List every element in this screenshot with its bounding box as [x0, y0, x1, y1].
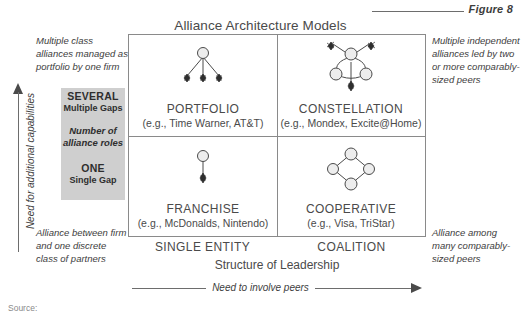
quadrant-label: FRANCHISE	[167, 202, 240, 216]
x-category-single-entity: SINGLE ENTITY	[128, 240, 277, 254]
quadrant-examples: (e.g., Mondex, Excite@Home)	[281, 116, 422, 130]
x-axis-label-text: Need to involve peers	[206, 282, 315, 293]
quadrant-label: COOPERATIVE	[306, 202, 396, 216]
x-category-coalition: COALITION	[277, 240, 426, 254]
quadrant-examples: (e.g., Time Warner, AT&T)	[143, 116, 264, 130]
quadrant-examples: (e.g., Visa, TriStar)	[307, 216, 394, 230]
page-title: Alliance Architecture Models	[0, 18, 521, 33]
single-node-single-gap-icon	[129, 136, 277, 203]
figure-header-rule	[372, 11, 464, 12]
quadrant-portfolio[interactable]: PORTFOLIO (e.g., Time Warner, AT&T)	[129, 35, 277, 136]
hub-and-three-spokes-icon	[129, 35, 277, 102]
source-note: Source:	[8, 303, 37, 311]
figure-label: Figure 8	[469, 3, 513, 15]
quadrant-constellation[interactable]: CONSTELLATION (e.g., Mondex, Excite@Home…	[277, 35, 425, 136]
quadrant-cooperative[interactable]: COOPERATIVE (e.g., Visa, TriStar)	[277, 136, 425, 237]
scale-band-middle-line1: Number of	[61, 125, 125, 136]
figure-page: Figure 8 Alliance Architecture Models Mu…	[0, 0, 521, 311]
quadrant-label: CONSTELLATION	[299, 102, 403, 116]
scale-band-middle-line2: alliance roles	[61, 137, 125, 148]
scale-band-top-value: SEVERAL	[61, 90, 125, 102]
three-node-triangle-with-arrows-icon	[277, 35, 425, 102]
y-axis-label: Need for additional capabilities	[25, 81, 37, 241]
four-node-diamond-ring-icon	[277, 136, 425, 203]
y-axis-line	[18, 92, 19, 252]
scale-band-top-sub: Multiple Gaps	[61, 103, 125, 113]
annotation-top-left: Multiple class alliances managed as port…	[36, 34, 128, 73]
x-axis-name: Structure of Leadership	[128, 258, 426, 272]
annotation-bottom-right: Alliance among many comparably-sized pee…	[432, 226, 520, 265]
scale-band-bottom-value: ONE	[61, 162, 125, 174]
scale-band-bottom-sub: Single Gap	[61, 175, 125, 185]
quadrant-label: PORTFOLIO	[167, 102, 240, 116]
matrix-frame: PORTFOLIO (e.g., Time Warner, AT&T)	[128, 34, 426, 237]
quadrant-franchise[interactable]: FRANCHISE (e.g., McDonalds, Nintendo)	[129, 136, 277, 237]
annotation-bottom-left: Alliance between firm and one discrete c…	[36, 226, 130, 265]
annotation-top-right: Multiple independent alliances led by tw…	[432, 34, 520, 86]
x-axis-label: Need to involve peers	[0, 282, 521, 293]
quadrant-examples: (e.g., McDonalds, Nintendo)	[138, 216, 269, 230]
